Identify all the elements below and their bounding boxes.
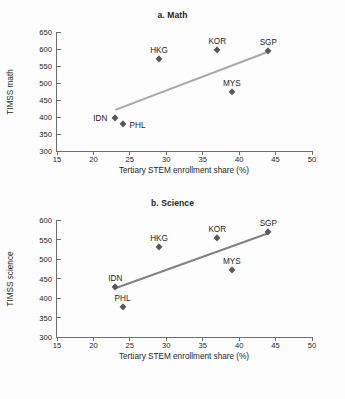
x-tick-mark xyxy=(129,337,130,341)
y-tick-mark xyxy=(57,220,61,221)
y-tick-mark xyxy=(57,239,61,240)
data-point-label: IDN xyxy=(108,274,122,283)
y-tick-label: 600 xyxy=(39,216,52,225)
x-tick-label: 30 xyxy=(162,341,170,350)
trend-line-science xyxy=(57,220,312,337)
x-tick-mark xyxy=(166,151,167,155)
x-tick-mark xyxy=(57,337,58,341)
y-tick-mark xyxy=(57,259,61,260)
data-point-label: PHL xyxy=(130,121,146,130)
x-tick-mark xyxy=(275,337,276,341)
x-tick-label: 20 xyxy=(89,155,97,164)
data-point-label: KOR xyxy=(208,224,226,233)
x-tick-mark xyxy=(202,337,203,341)
x-tick-label: 15 xyxy=(53,341,61,350)
y-tick-mark xyxy=(57,117,61,118)
x-tick-mark xyxy=(202,151,203,155)
x-tick-mark xyxy=(312,151,313,155)
x-tick-label: 40 xyxy=(235,155,243,164)
x-tick-label: 50 xyxy=(308,341,316,350)
chart-panel-science: b. Science TIMSS science 300350400450500… xyxy=(0,192,345,399)
x-tick-label: 15 xyxy=(53,155,61,164)
x-tick-label: 40 xyxy=(235,341,243,350)
x-tick-mark xyxy=(239,151,240,155)
x-tick-label: 20 xyxy=(89,341,97,350)
plot-area-science: 3003504004505005506001520253035404550IDN… xyxy=(56,220,312,338)
y-tick-label: 300 xyxy=(39,333,52,342)
y-tick-mark xyxy=(57,83,61,84)
x-tick-label: 25 xyxy=(126,155,134,164)
data-point-label: PHL xyxy=(115,293,131,302)
y-tick-label: 450 xyxy=(39,96,52,105)
x-tick-label: 35 xyxy=(198,155,206,164)
x-tick-label: 45 xyxy=(271,341,279,350)
y-tick-label: 550 xyxy=(39,235,52,244)
plot-area-math: 3003504004505005506006501520253035404550… xyxy=(56,32,312,152)
figure-container: a. Math TIMSS math 300350400450500550600… xyxy=(0,0,345,399)
x-tick-mark xyxy=(93,151,94,155)
x-tick-label: 50 xyxy=(308,155,316,164)
y-tick-mark xyxy=(57,298,61,299)
y-tick-mark xyxy=(57,32,61,33)
y-axis-label-science: TIMSS science xyxy=(6,251,15,306)
y-tick-mark xyxy=(57,317,61,318)
data-point-label: KOR xyxy=(208,36,226,45)
y-tick-label: 450 xyxy=(39,274,52,283)
data-point-label: HKG xyxy=(150,234,168,243)
y-tick-label: 400 xyxy=(39,113,52,122)
y-tick-label: 650 xyxy=(39,28,52,37)
chart-panel-math: a. Math TIMSS math 300350400450500550600… xyxy=(0,0,345,199)
y-tick-label: 600 xyxy=(39,45,52,54)
y-axis-label-math: TIMSS math xyxy=(6,69,15,115)
x-tick-label: 25 xyxy=(126,341,134,350)
y-tick-label: 400 xyxy=(39,294,52,303)
x-tick-label: 30 xyxy=(162,155,170,164)
y-tick-label: 500 xyxy=(39,255,52,264)
y-tick-label: 500 xyxy=(39,79,52,88)
data-point-label: MYS xyxy=(223,78,241,87)
y-tick-label: 350 xyxy=(39,313,52,322)
x-tick-mark xyxy=(57,151,58,155)
x-tick-mark xyxy=(129,151,130,155)
y-tick-label: 300 xyxy=(39,147,52,156)
chart-title-science: b. Science xyxy=(0,198,345,208)
x-tick-label: 45 xyxy=(271,155,279,164)
data-point-label: HKG xyxy=(150,45,168,54)
x-tick-mark xyxy=(166,337,167,341)
data-point-label: MYS xyxy=(223,257,241,266)
x-tick-mark xyxy=(312,337,313,341)
y-tick-mark xyxy=(57,66,61,67)
y-tick-mark xyxy=(57,100,61,101)
trend-line-math xyxy=(57,32,312,151)
x-tick-label: 35 xyxy=(198,341,206,350)
x-tick-mark xyxy=(93,337,94,341)
data-point-label: SGP xyxy=(260,38,277,47)
x-tick-mark xyxy=(275,151,276,155)
chart-title-math: a. Math xyxy=(0,10,345,20)
data-point-label: SGP xyxy=(260,219,277,228)
y-tick-mark xyxy=(57,134,61,135)
x-axis-label-science: Tertiary STEM enrollment share (%) xyxy=(56,352,312,361)
y-tick-label: 350 xyxy=(39,130,52,139)
y-tick-mark xyxy=(57,278,61,279)
data-point-label: IDN xyxy=(93,114,107,123)
y-tick-mark xyxy=(57,49,61,50)
x-axis-label-math: Tertiary STEM enrollment share (%) xyxy=(56,166,312,175)
y-tick-label: 550 xyxy=(39,62,52,71)
x-tick-mark xyxy=(239,337,240,341)
